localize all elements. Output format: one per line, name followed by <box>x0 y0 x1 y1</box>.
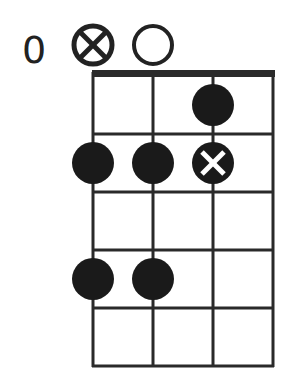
finger-dot <box>72 142 114 184</box>
strings <box>93 72 273 367</box>
finger-dot <box>132 258 174 300</box>
open-string-marker-icon <box>134 26 172 64</box>
finger-dot-x-icon <box>192 142 234 184</box>
finger-dot <box>132 142 174 184</box>
finger-dot <box>192 84 234 126</box>
frets <box>92 134 274 366</box>
muted-string-marker-icon <box>74 26 112 64</box>
chord-diagram <box>0 0 301 375</box>
nut <box>92 70 275 77</box>
finger-dot <box>72 258 114 300</box>
